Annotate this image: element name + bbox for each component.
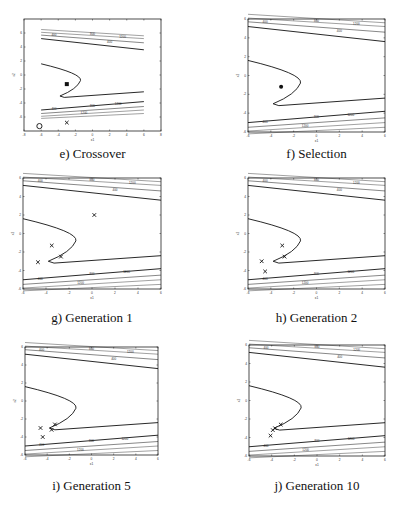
- y-tick-label: -6: [244, 454, 247, 458]
- contour-lines: 400800120040040080012001200: [249, 340, 385, 457]
- x-tick-label: -6: [22, 291, 25, 295]
- contour-label: 800: [314, 115, 319, 119]
- x-tick-label: 4: [137, 291, 139, 295]
- x-tick-label: -6: [40, 133, 43, 137]
- contour-label: 1200: [77, 448, 84, 452]
- y-tick-label: 2: [244, 55, 246, 59]
- contour-label: 400: [263, 346, 268, 350]
- x-tick-label: 6: [384, 458, 386, 462]
- y-tick-label: 6: [244, 17, 246, 21]
- caption-g: g) Generation 1: [23, 310, 161, 326]
- panel-f: -6-4-20246-6-4-20246x1x24008001200400400…: [248, 19, 385, 132]
- contour-lines: 400800120040040080012001200: [41, 30, 144, 119]
- contour-label: 1200: [123, 270, 130, 274]
- square-marker: [65, 82, 69, 86]
- panel-e: -8-6-4-202468-6-4-20246x1x24008001200400…: [24, 19, 161, 131]
- x-tick-label: 6: [143, 133, 145, 137]
- x-tick-label: 0: [92, 133, 94, 137]
- y-tick-label: -4: [20, 435, 23, 439]
- x-tick-label: -8: [23, 133, 26, 137]
- x-marker: [39, 426, 43, 430]
- y-tick-label: 6: [21, 345, 23, 349]
- contour-label: 1200: [77, 281, 84, 285]
- panel-i: -6-4-20246-6-4-20246x1x24008001200400400…: [25, 347, 158, 455]
- contour-label: 800: [89, 439, 94, 443]
- x-tick-label: 2: [113, 457, 115, 461]
- contour-label: 800: [314, 272, 319, 276]
- x-tick-label: -4: [270, 458, 273, 462]
- circle-marker: [37, 124, 42, 129]
- y-axis-label: x2: [11, 232, 15, 236]
- contour-label: 400: [263, 120, 268, 124]
- x-tick-label: 0: [91, 457, 93, 461]
- contour-lines: 400800120040040080012001200: [248, 173, 385, 290]
- x-tick-label: 4: [361, 458, 363, 462]
- x-marker: [260, 259, 264, 263]
- x-tick-label: 4: [126, 133, 128, 137]
- contour-label: 1200: [353, 181, 360, 185]
- y-tick-label: -4: [18, 269, 21, 273]
- contour-label: 400: [51, 107, 56, 111]
- x-tick-label: 2: [339, 458, 341, 462]
- y-axis-label: x2: [13, 399, 17, 403]
- contour-label: 800: [89, 347, 94, 351]
- x-tick-label: 6: [384, 134, 386, 138]
- y-tick-label: 6: [19, 176, 21, 180]
- contour-label: 400: [263, 20, 268, 24]
- plot-j: -6-4-20246-6-4-20246x1x24008001200400400…: [249, 345, 385, 456]
- y-tick-label: -2: [243, 250, 246, 254]
- x-tick-label: 6: [157, 457, 159, 461]
- x-tick-label: -2: [292, 291, 295, 295]
- contour-label: 400: [337, 29, 342, 33]
- x-marker: [93, 213, 97, 217]
- caption-i: i) Generation 5: [25, 478, 158, 494]
- x-marker: [280, 244, 284, 248]
- y-tick-label: 4: [245, 362, 247, 366]
- caption-j: j) Generation 10: [249, 478, 385, 494]
- y-tick-label: 2: [20, 59, 22, 63]
- x-marker: [269, 434, 273, 438]
- plot-f: -6-4-20246-6-4-20246x1x24008001200400400…: [248, 19, 385, 132]
- x-tick-label: 4: [361, 291, 363, 295]
- contour-label: 1200: [115, 102, 122, 106]
- y-tick-label: -4: [243, 111, 246, 115]
- x-tick-label: -2: [68, 457, 71, 461]
- y-axis-label: x2: [236, 74, 240, 78]
- y-tick-label: 2: [19, 213, 21, 217]
- y-tick-label: 0: [21, 399, 23, 403]
- y-tick-label: -6: [18, 287, 21, 291]
- contour-label: 1200: [353, 348, 360, 352]
- contour-label: 400: [38, 277, 43, 281]
- y-tick-label: 6: [20, 31, 22, 35]
- contour-label: 400: [111, 357, 116, 361]
- x-tick-label: -4: [269, 134, 272, 138]
- x-tick-label: 0: [316, 458, 318, 462]
- y-tick-label: -6: [243, 130, 246, 134]
- x-axis-label: x1: [90, 462, 94, 466]
- x-marker: [263, 270, 267, 274]
- contour-label: 800: [314, 178, 319, 182]
- y-tick-label: 0: [20, 73, 22, 77]
- contour-label: 1200: [81, 111, 88, 115]
- x-tick-label: 2: [109, 133, 111, 137]
- x-tick-label: 8: [160, 133, 162, 137]
- x-tick-label: -6: [247, 291, 250, 295]
- x-tick-label: -2: [292, 134, 295, 138]
- contour-label: 1200: [302, 448, 309, 452]
- contour-label: 400: [337, 355, 342, 359]
- contour-label: 1200: [129, 181, 136, 185]
- contour-lines: 400800120040040080012001200: [23, 173, 161, 290]
- contour-label: 400: [51, 33, 56, 37]
- contour-lines: 400800120040040080012001200: [248, 14, 385, 134]
- x-tick-label: 4: [135, 457, 137, 461]
- contour-label: 800: [314, 19, 319, 23]
- x-axis-label: x1: [91, 138, 95, 142]
- y-tick-label: -4: [244, 436, 247, 440]
- y-tick-label: 2: [21, 381, 23, 385]
- x-tick-label: -2: [68, 291, 71, 295]
- plot-h: -6-4-20246-6-4-20246x1x24008001200400400…: [248, 178, 385, 289]
- contour-label: 1200: [347, 113, 354, 117]
- y-tick-label: 6: [244, 176, 246, 180]
- panel-h: -6-4-20246-6-4-20246x1x24008001200400400…: [248, 178, 385, 289]
- contour-label: 800: [89, 272, 94, 276]
